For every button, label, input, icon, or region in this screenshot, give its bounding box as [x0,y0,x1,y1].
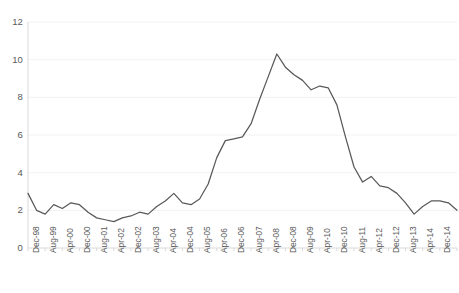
data-line-series-1 [28,54,457,222]
line-chart: 024681012 Dec-98Aug-99Apr-00Dec-00Aug-01… [0,0,459,293]
chart-plot-area [0,0,459,293]
gridlines [28,22,457,248]
